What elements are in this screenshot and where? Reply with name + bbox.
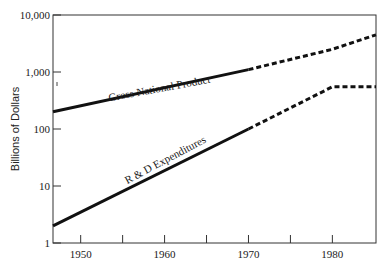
series-0-projection-line bbox=[249, 35, 377, 70]
y-tick-label: 10,000 bbox=[20, 9, 51, 21]
x-tick-label: 1960 bbox=[154, 248, 177, 260]
gnp-label: Gross National Product bbox=[107, 73, 211, 104]
y-axis-title: Billions of Dollars bbox=[9, 86, 21, 171]
y-tick-label: 1,000 bbox=[25, 66, 50, 78]
y-tick-label: 1 bbox=[45, 237, 51, 249]
series-group bbox=[53, 35, 376, 226]
rd-label: R & D Expenditures bbox=[123, 133, 208, 186]
x-tick-label: 1950 bbox=[70, 248, 93, 260]
series-1-projection-line bbox=[249, 87, 377, 129]
x-axis: 1950196019701980 bbox=[70, 235, 344, 260]
series-1-actual-line bbox=[53, 129, 249, 226]
y-tick-label: 100 bbox=[34, 123, 51, 135]
y-tick-label: 10 bbox=[39, 180, 51, 192]
x-tick-label: 1980 bbox=[321, 248, 344, 260]
chart: 1101001,00010,000 1950196019701980 Billi… bbox=[0, 0, 391, 270]
x-tick-label: 1970 bbox=[237, 248, 260, 260]
y-axis: 1101001,00010,000 bbox=[20, 9, 61, 249]
